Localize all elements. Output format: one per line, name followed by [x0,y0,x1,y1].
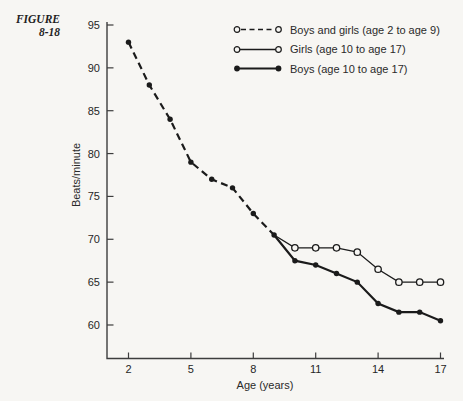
data-point-filled [126,39,131,44]
dashed-line-open-circle-icon [233,23,283,36]
y-tick-label: 70 [88,233,100,245]
legend-item-boys: Boys (age 10 to age 17) [233,62,440,75]
y-tick-label: 60 [88,319,100,331]
x-tick-label: 17 [434,363,446,375]
x-tick-label: 11 [310,363,321,375]
data-point-open [292,245,298,251]
x-tick-label: 8 [250,363,256,375]
solid-line-open-circle-icon [233,43,283,56]
data-point-filled [147,82,152,87]
legend-item-boys-and-girls: Boys and girls (age 2 to age 9) [233,23,440,36]
solid-line-filled-circle-icon [233,62,283,75]
chart-legend: Boys and girls (age 2 to age 9) Girls (a… [233,23,440,82]
x-axis-title: Age (years) [205,379,325,391]
data-point-open [396,279,402,285]
data-point-open [437,279,443,285]
legend-label: Boys and girls (age 2 to age 9) [290,24,440,36]
data-point-filled [188,159,193,164]
y-tick-label: 95 [88,19,100,31]
data-point-filled [209,177,214,182]
y-tick-label: 75 [88,190,100,202]
data-point-filled [355,279,360,284]
data-point-filled [230,185,235,190]
legend-label: Boys (age 10 to age 17) [290,63,407,75]
legend-item-girls: Girls (age 10 to age 17) [233,43,440,56]
scanned-figure-page: FIGURE 8-18 6065707580859095258111417 Bo… [0,0,463,401]
data-point-filled [292,258,297,263]
x-tick-label: 5 [188,363,194,375]
data-point-filled [438,318,443,323]
data-point-filled [313,262,318,267]
data-point-open [375,266,381,272]
x-tick-label: 2 [125,363,131,375]
data-point-filled [375,301,380,306]
data-point-open [417,279,423,285]
y-tick-label: 65 [88,276,100,288]
data-point-filled [396,309,401,314]
legend-label: Girls (age 10 to age 17) [290,43,406,55]
data-point-filled [334,271,339,276]
y-tick-label: 85 [88,105,100,117]
data-point-filled [251,211,256,216]
series-line-1 [274,235,440,282]
data-point-open [313,245,319,251]
data-point-filled [417,309,422,314]
data-point-open [354,249,360,255]
data-point-open [333,245,339,251]
data-point-filled [167,117,172,122]
y-axis-title: Beats/minute [70,143,82,207]
y-tick-label: 80 [88,148,100,160]
y-tick-label: 90 [88,62,100,74]
x-tick-label: 14 [372,363,384,375]
